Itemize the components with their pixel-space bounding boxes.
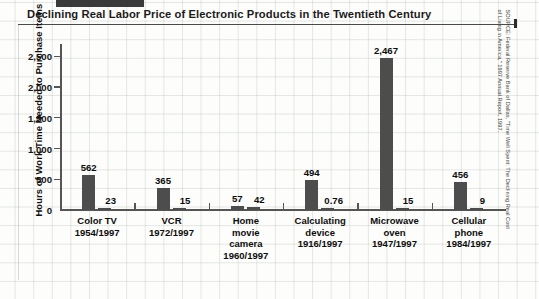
bar-value-label: 494 <box>289 167 335 178</box>
category-label-line: 1960/1997 <box>203 250 289 262</box>
bar-secondary[interactable] <box>396 208 409 210</box>
y-axis-tick-label: 1,500 <box>0 112 52 123</box>
category-label-line: oven <box>352 227 438 239</box>
bar-primary[interactable] <box>231 206 244 210</box>
x-axis-tick <box>209 203 210 210</box>
y-axis-tick <box>54 179 61 180</box>
bar-value-label: 365 <box>140 175 186 186</box>
y-axis-title: Hours of Work Time Needed to Purchase It… <box>33 27 44 217</box>
bar-value-label: 562 <box>66 162 112 173</box>
category-label-line: movie <box>203 227 289 239</box>
category-label-line: Color TV <box>54 215 140 227</box>
category-label-line: Calculating <box>277 215 363 227</box>
y-axis-tick-label: 2,500 <box>0 51 52 62</box>
title-end-marker <box>514 19 517 28</box>
bar-secondary[interactable] <box>321 208 334 210</box>
bar-value-label: 0.76 <box>311 195 357 206</box>
category-label-line: Microwave <box>352 215 438 227</box>
bar-value-label: 42 <box>236 194 282 205</box>
x-axis-category-label: VCR1972/1997 <box>129 215 215 238</box>
chart-title: Declining Real Labor Price of Electronic… <box>27 8 431 20</box>
x-axis-tick <box>134 203 135 210</box>
category-label-line: Home <box>203 215 289 227</box>
y-axis-tick <box>54 86 61 87</box>
bar-primary[interactable] <box>380 58 393 210</box>
decorative-top-tab <box>56 0 144 7</box>
x-axis-category-label: Calculatingdevice1916/1997 <box>277 215 363 250</box>
x-axis-tick <box>283 203 284 210</box>
category-label-line: 1972/1997 <box>129 227 215 239</box>
y-axis-tick <box>54 56 61 57</box>
plot-area <box>60 44 506 210</box>
bar-secondary[interactable] <box>173 208 186 210</box>
x-axis-category-label: Color TV1954/1997 <box>54 215 140 238</box>
y-axis-tick-label: 2,000 <box>0 82 52 93</box>
category-label-line: camera <box>203 238 289 250</box>
category-label-line: 1984/1997 <box>426 238 512 250</box>
bar-secondary[interactable] <box>470 208 483 210</box>
bar-value-label: 456 <box>437 169 483 180</box>
category-label-line: 1916/1997 <box>277 238 363 250</box>
bar-value-label: 15 <box>385 195 431 206</box>
x-axis-tick <box>357 203 358 210</box>
x-axis-tick <box>432 203 433 210</box>
x-axis-category-label: Microwaveoven1947/1997 <box>352 215 438 250</box>
bar-value-label: 23 <box>88 195 134 206</box>
bar-secondary[interactable] <box>98 208 111 210</box>
category-label-line: phone <box>426 227 512 239</box>
y-axis-labels: 05001,0001,5002,0002,500 <box>0 0 52 299</box>
y-axis-tick-label: 0 <box>0 205 52 216</box>
category-label-line: 1954/1997 <box>54 227 140 239</box>
x-axis-category-label: Cellularphone1984/1997 <box>426 215 512 250</box>
bar-secondary[interactable] <box>247 207 260 210</box>
bar-value-label: 2,467 <box>363 45 409 56</box>
category-label-line: Cellular <box>426 215 512 227</box>
y-axis-tick <box>54 117 61 118</box>
category-label-line: VCR <box>129 215 215 227</box>
y-axis-tick-label: 1,000 <box>0 143 52 154</box>
y-axis-tick-label: 500 <box>0 174 52 185</box>
y-axis-tick <box>54 148 61 149</box>
bar-value-label: 15 <box>162 195 208 206</box>
category-label-line: device <box>277 227 363 239</box>
bar-value-label: 9 <box>459 195 505 206</box>
category-label-line: 1947/1997 <box>352 238 438 250</box>
x-axis-category-label: Homemoviecamera1960/1997 <box>203 215 289 261</box>
